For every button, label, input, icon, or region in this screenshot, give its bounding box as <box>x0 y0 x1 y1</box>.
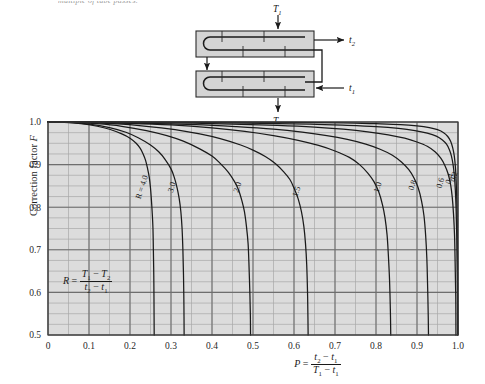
r-definition-annotation: R = T1 − T2 t2 − t1 <box>63 269 112 294</box>
x-tick-6: 0.6 <box>288 341 300 351</box>
y-tick-1: 0.6 <box>29 288 41 298</box>
x-tick-7: 0.7 <box>329 341 341 351</box>
x-tick-2: 0.2 <box>124 341 136 351</box>
x-tick-10: 1.0 <box>452 341 464 351</box>
figure-root: multiple of tube passes. <box>0 0 485 384</box>
x-tick-0: 0 <box>46 341 51 351</box>
x-tick-1: 0.1 <box>83 341 95 351</box>
x-tick-4: 0.4 <box>206 341 218 351</box>
label-T1: T1 <box>273 4 282 16</box>
y-tick-0: 0.5 <box>29 330 41 340</box>
heat-exchanger-diagram: T1 T2 t2 t1 <box>196 4 356 128</box>
x-tick-9: 0.9 <box>411 341 423 351</box>
x-tick-5: 0.5 <box>247 341 259 351</box>
label-t2: t2 <box>349 35 356 47</box>
x-axis-title: P = t2 − t1 T1 − t1 <box>0 352 485 377</box>
figure-svg: T1 T2 t2 t1 R = 4.03.02.01.51.00.80.60.4… <box>0 0 485 384</box>
x-tick-3: 0.3 <box>165 341 177 351</box>
x-tick-labels: 00.10.20.30.40.50.60.70.80.91.0 <box>46 341 465 351</box>
x-tick-8: 0.8 <box>370 341 382 351</box>
chart-area: R = 4.03.02.01.51.00.80.60.40.2 00.10.20… <box>29 117 464 351</box>
y-axis-title: Correction factor F <box>28 96 39 256</box>
upper-shell-body <box>196 31 314 57</box>
lower-shell-body <box>196 71 314 97</box>
label-t1: t1 <box>349 83 355 95</box>
